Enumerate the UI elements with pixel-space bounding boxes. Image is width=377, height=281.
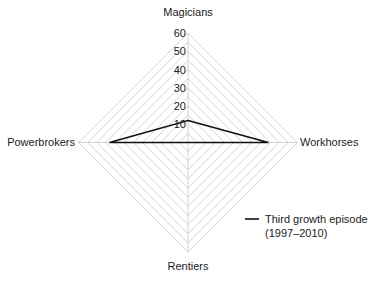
tick-label: 60 bbox=[174, 27, 186, 39]
legend: Third growth episode (1997–2010) bbox=[245, 213, 368, 239]
legend-label-line2: (1997–2010) bbox=[265, 227, 327, 239]
radar-chart: Magicians Workhorses Rentiers Powerbroke… bbox=[0, 0, 377, 281]
tick-labels: 102030405060 bbox=[174, 27, 186, 130]
tick-label: 30 bbox=[174, 82, 186, 94]
tick-label: 50 bbox=[174, 45, 186, 57]
tick-label: 20 bbox=[174, 100, 186, 112]
legend-label-line1: Third growth episode bbox=[265, 213, 368, 225]
axis-label-rentiers: Rentiers bbox=[168, 260, 209, 272]
axis-label-powerbrokers: Powerbrokers bbox=[7, 136, 75, 148]
axis-label-workhorses: Workhorses bbox=[300, 136, 359, 148]
tick-label: 10 bbox=[174, 118, 186, 130]
tick-label: 40 bbox=[174, 64, 186, 76]
axis-label-magicians: Magicians bbox=[163, 6, 213, 18]
